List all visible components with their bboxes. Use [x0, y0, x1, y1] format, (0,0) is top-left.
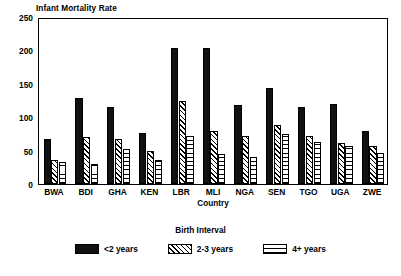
bar-sen-series-1 — [274, 125, 281, 184]
bar-gha-series-2 — [123, 149, 130, 184]
bar-gha-series-0 — [107, 107, 114, 184]
y-tick-label-50: 50 — [24, 147, 33, 155]
x-tick-label-mli: MLI — [206, 187, 220, 197]
legend-swatch-cross-hatch — [263, 244, 287, 254]
bar-gha-series-1 — [115, 139, 122, 184]
bar-zwe-series-2 — [377, 153, 384, 184]
bar-bwa-series-2 — [59, 162, 66, 184]
bar-bdi-series-1 — [83, 137, 90, 184]
bar-tgo-series-1 — [306, 136, 313, 184]
x-tick-label-bdi: BDI — [79, 187, 93, 197]
bar-group-lbr — [171, 19, 194, 184]
bar-bwa-series-1 — [51, 160, 58, 184]
plot-frame — [38, 18, 388, 185]
infant-mortality-bar-chart: Infant Mortality Rate 050100150200250 BW… — [0, 0, 401, 276]
legend-swatch-diagonal-hatch — [168, 244, 192, 254]
bar-group-zwe — [362, 19, 385, 184]
bar-lbr-series-1 — [179, 101, 186, 184]
bar-mli-series-1 — [210, 131, 217, 184]
bar-group-ken — [139, 19, 162, 184]
x-axis-title: Country — [38, 199, 388, 208]
bar-group-bdi — [75, 19, 98, 184]
bar-sen-series-0 — [266, 88, 273, 184]
bar-lbr-series-0 — [171, 48, 178, 184]
bar-ken-series-2 — [155, 160, 162, 184]
legend: <2 years2-3 years4+ years — [0, 244, 401, 254]
legend-entry-0: <2 years — [75, 244, 138, 254]
legend-entry-1: 2-3 years — [168, 244, 233, 254]
bar-zwe-series-0 — [362, 131, 369, 184]
bar-mli-series-2 — [218, 154, 225, 184]
bar-bdi-series-2 — [91, 164, 98, 184]
bar-tgo-series-0 — [298, 107, 305, 184]
x-tick-label-ken: KEN — [141, 187, 159, 197]
x-tick-label-bwa: BWA — [44, 187, 64, 197]
bar-group-mli — [203, 19, 226, 184]
bar-ken-series-1 — [147, 151, 154, 184]
bar-uga-series-2 — [345, 146, 352, 184]
legend-label-0: <2 years — [104, 244, 138, 254]
legend-label-1: 2-3 years — [197, 244, 233, 254]
plot-area — [39, 19, 387, 184]
y-axis-title: Infant Mortality Rate — [36, 4, 117, 13]
bar-ken-series-0 — [139, 133, 146, 184]
bar-group-gha — [107, 19, 130, 184]
y-tick-label-0: 0 — [28, 181, 33, 189]
legend-title: Birth Interval — [0, 226, 401, 235]
x-tick-label-gha: GHA — [108, 187, 127, 197]
bar-tgo-series-2 — [314, 142, 321, 184]
x-tick-label-tgo: TGO — [299, 187, 317, 197]
x-tick-label-uga: UGA — [331, 187, 350, 197]
bar-nga-series-2 — [250, 157, 257, 184]
bar-group-sen — [266, 19, 289, 184]
x-tick-label-lbr: LBR — [173, 187, 190, 197]
y-axis-tick-labels: 050100150200250 — [0, 18, 33, 185]
legend-entry-2: 4+ years — [263, 244, 326, 254]
bar-mli-series-0 — [203, 48, 210, 184]
bar-uga-series-0 — [330, 104, 337, 184]
x-tick-label-nga: NGA — [236, 187, 255, 197]
y-tick-label-150: 150 — [19, 81, 33, 89]
bar-uga-series-1 — [338, 143, 345, 184]
y-tick-label-250: 250 — [19, 14, 33, 22]
x-tick-label-sen: SEN — [268, 187, 285, 197]
bar-nga-series-0 — [234, 105, 241, 184]
bar-group-nga — [234, 19, 257, 184]
x-tick-label-zwe: ZWE — [363, 187, 382, 197]
bar-group-uga — [330, 19, 353, 184]
legend-swatch-solid-black — [75, 244, 99, 254]
bar-lbr-series-2 — [186, 136, 193, 184]
y-tick-label-100: 100 — [19, 114, 33, 122]
bar-nga-series-1 — [242, 136, 249, 184]
bar-group-tgo — [298, 19, 321, 184]
bar-zwe-series-1 — [369, 146, 376, 184]
bar-bwa-series-0 — [44, 139, 51, 184]
bar-bdi-series-0 — [75, 98, 82, 184]
y-tick-label-200: 200 — [19, 47, 33, 55]
bar-group-bwa — [44, 19, 67, 184]
bar-sen-series-2 — [282, 134, 289, 184]
legend-label-2: 4+ years — [292, 244, 326, 254]
